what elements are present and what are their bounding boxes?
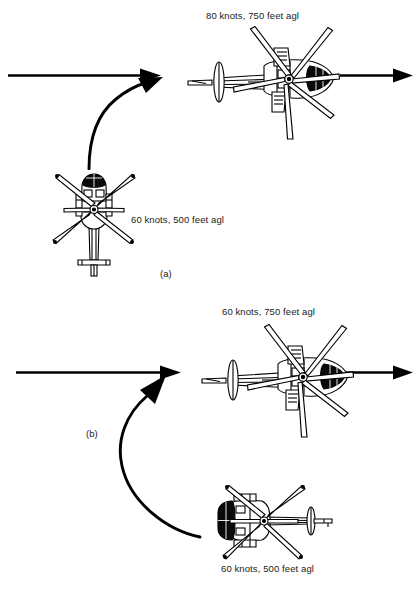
annotation-b-top: 60 knots, 750 feet agl <box>222 306 315 317</box>
turn-arrow-a <box>76 70 168 170</box>
helicopter-top-view-nose-right-a <box>182 26 340 142</box>
annotation-b-bottom: 60 knots, 500 feet agl <box>221 563 314 574</box>
annotation-a-top: 80 knots, 750 feet agl <box>206 10 299 21</box>
flight-path-arrow-a-outbound <box>338 64 416 88</box>
helicopter-top-view-nose-up-a <box>48 168 140 280</box>
figure-root: 80 knots, 750 feet agl <box>0 0 418 594</box>
panel-b-label: (b) <box>86 428 98 439</box>
turn-arrow-b <box>104 372 210 540</box>
helicopter-top-view-nose-right-b <box>196 324 354 440</box>
annotation-a-bottom: 60 knots, 500 feet agl <box>131 214 224 225</box>
panel-a-label: (a) <box>160 268 172 279</box>
helicopter-top-view-nose-left-b <box>206 478 338 564</box>
